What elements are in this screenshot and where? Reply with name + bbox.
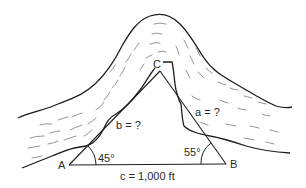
- lower-bank-left-outline: [22, 68, 155, 168]
- angle-arc-b: [201, 143, 211, 164]
- triangle-river-diagram: C A B 45° 55° b = ? a = ? c = 1,000 ft: [0, 0, 306, 188]
- gorge-outline: [163, 62, 290, 153]
- side-label-c: c = 1,000 ft: [120, 170, 175, 182]
- side-label-a: a = ?: [195, 106, 220, 118]
- angle-label-b: 55°: [184, 146, 201, 158]
- triangle-side-c: [69, 164, 226, 165]
- angle-label-a: 45°: [98, 152, 115, 164]
- vertex-label-c: C: [153, 58, 161, 70]
- vertex-label-b: B: [230, 158, 237, 170]
- water-hatching: [28, 23, 278, 158]
- vertex-label-a: A: [58, 159, 66, 171]
- side-label-b: b = ?: [116, 119, 141, 131]
- angle-arc-a: [88, 146, 96, 165]
